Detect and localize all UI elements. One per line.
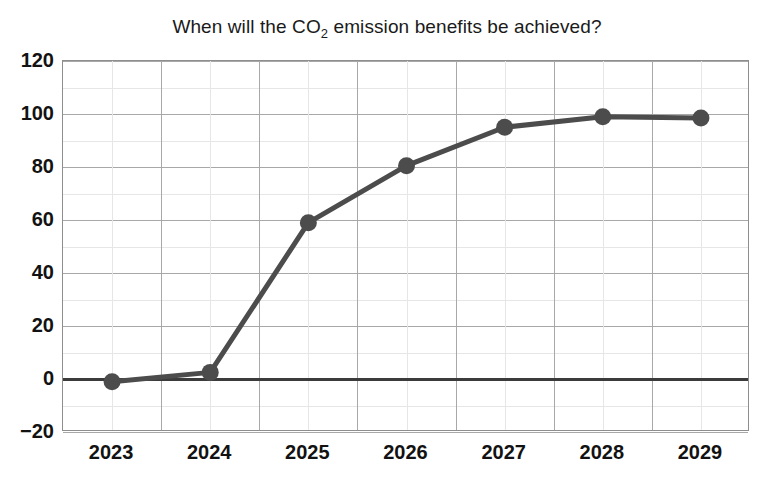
chart-figure: When will the CO2 emission benefits be a… xyxy=(0,0,774,500)
data-point-marker xyxy=(594,108,611,125)
data-point-marker xyxy=(496,119,513,136)
y-axis-tick-label: 20 xyxy=(0,314,54,337)
y-axis-tick-labels: 120100806040200−20 xyxy=(0,60,54,431)
y-axis-tick-label: 100 xyxy=(0,102,54,125)
data-point-marker xyxy=(300,214,317,231)
chart-title-after: emission benefits be achieved? xyxy=(328,16,602,37)
data-point-marker xyxy=(692,109,709,126)
series-markers xyxy=(104,108,710,390)
series-layer xyxy=(63,61,750,432)
y-axis-tick-label: 80 xyxy=(0,155,54,178)
y-axis-tick-label: −20 xyxy=(0,420,54,443)
data-point-marker xyxy=(202,364,219,381)
plot-area xyxy=(62,60,749,431)
x-axis-tick-label: 2029 xyxy=(640,441,760,464)
chart-title-before: When will the CO xyxy=(172,16,320,37)
chart-title-subscript: 2 xyxy=(321,26,328,41)
x-axis-tick-labels: 2023202420252026202720282029 xyxy=(62,441,749,471)
y-axis-tick-label: 60 xyxy=(0,208,54,231)
y-axis-tick-label: 0 xyxy=(0,367,54,390)
y-axis-tick-label: 120 xyxy=(0,49,54,72)
chart-title: When will the CO2 emission benefits be a… xyxy=(0,16,774,38)
gridline-y-major xyxy=(63,432,748,433)
series-line-co2-benefits xyxy=(112,117,701,382)
y-axis-tick-label: 40 xyxy=(0,261,54,284)
data-point-marker xyxy=(104,373,121,390)
data-point-marker xyxy=(398,157,415,174)
